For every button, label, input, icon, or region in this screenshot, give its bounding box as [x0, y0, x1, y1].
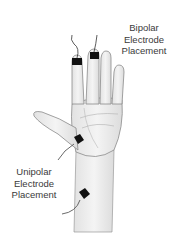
wrist [74, 150, 114, 232]
unipolar-electrode-placement-label: Unipolar Electrode Placement [4, 166, 64, 201]
electrode-placement-diagram: Bipolar Electrode Placement Unipolar Ele… [0, 0, 179, 234]
little-finger [112, 65, 124, 104]
bipolar-electrode-1 [72, 58, 82, 65]
bipolar-electrode-2 [90, 52, 99, 59]
palm [72, 98, 123, 157]
bipolar-wire-1 [71, 35, 78, 58]
bipolar-electrode-placement-label: Bipolar Electrode Placement [116, 22, 172, 57]
unipolar-wire-1 [58, 144, 74, 160]
ring-finger [100, 51, 111, 104]
